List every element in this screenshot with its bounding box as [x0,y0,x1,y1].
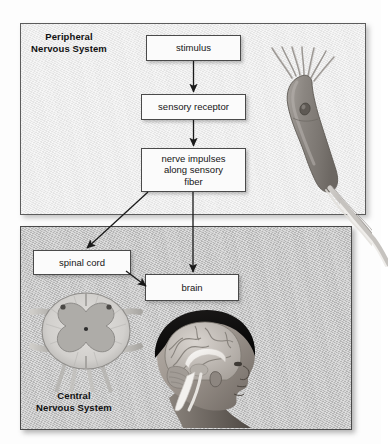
peripheral-nervous-system-title: Peripheral Nervous System [22,31,116,54]
flow-box-stimulus[interactable]: stimulus [146,35,241,61]
flow-box-brain[interactable]: brain [145,274,239,301]
flow-box-sensory-receptor[interactable]: sensory receptor [141,94,246,120]
central-nervous-system-title: Central Nervous System [22,390,126,413]
flow-box-sensory-receptor-label: sensory receptor [158,101,229,113]
pns-title-line1: Peripheral [22,31,116,43]
nerve-impulses-line2: along sensory [164,164,223,175]
nerve-impulses-line3: fiber [184,176,202,187]
flow-box-brain-label: brain [181,282,202,294]
cns-title-line2: Nervous System [22,402,126,414]
flow-box-stimulus-label: stimulus [176,42,211,54]
flow-box-nerve-impulses-label: nerve impulses along sensory fiber [162,153,226,188]
nerve-impulses-line1: nerve impulses [162,153,226,164]
pns-title-line2: Nervous System [22,43,116,55]
flow-box-spinal-cord[interactable]: spinal cord [33,250,131,275]
flow-box-nerve-impulses[interactable]: nerve impulses along sensory fiber [141,148,246,192]
flow-box-spinal-cord-label: spinal cord [59,257,105,269]
cns-title-line1: Central [22,390,126,402]
